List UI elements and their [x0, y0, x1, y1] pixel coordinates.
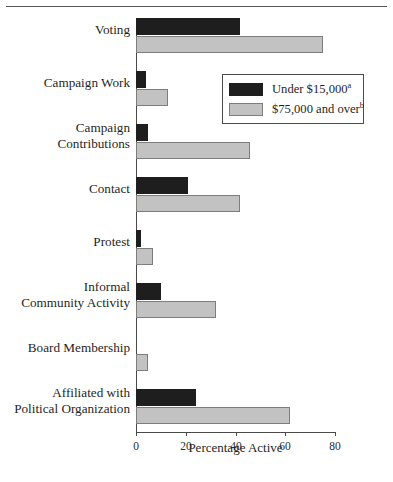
legend-entry-under15k: Under $15,000a: [229, 79, 357, 99]
category-label-line: Informal: [6, 279, 130, 295]
x-axis-title: Percentage Active: [136, 440, 335, 456]
legend: Under $15,000a $75,000 and overb: [222, 74, 364, 124]
bar-voting-over75k: [136, 36, 323, 53]
category-label-voting: Voting: [6, 22, 136, 38]
category-label-campaign-work: Campaign Work: [6, 75, 136, 91]
top-rule-divider: [6, 6, 387, 7]
category-label-contact: Contact: [6, 181, 136, 197]
category-label-line: Political Organization: [6, 401, 130, 417]
x-axis-tick-80: [335, 432, 336, 436]
bar-informal-community-activity-under15k: [136, 283, 161, 300]
bar-affiliated-political-organization-over75k: [136, 407, 290, 424]
bar-board-membership-over75k: [136, 354, 148, 371]
figure-bar-chart: Voting Campaign Work Campaign Contributi…: [0, 0, 393, 482]
category-label-line: Voting: [6, 22, 130, 38]
category-label-line: Community Activity: [6, 295, 130, 311]
category-label-line: Board Membership: [6, 340, 130, 356]
bar-campaign-work-over75k: [136, 89, 168, 106]
category-label-affiliated-political-organization: Affiliated with Political Organization: [6, 385, 136, 417]
category-labels: Voting Campaign Work Campaign Contributi…: [0, 18, 136, 433]
x-axis-tick-40: [236, 432, 237, 436]
x-axis-tick-0: [136, 432, 137, 436]
legend-footnote-marker: a: [348, 80, 352, 90]
category-label-line: Campaign: [6, 120, 130, 136]
bar-contact-under15k: [136, 177, 188, 194]
category-label-line: Protest: [6, 234, 130, 250]
bar-informal-community-activity-over75k: [136, 301, 216, 318]
category-label-board-membership: Board Membership: [6, 340, 136, 356]
bar-campaign-contributions-under15k: [136, 124, 148, 141]
bar-affiliated-political-organization-under15k: [136, 389, 196, 406]
category-label-line: Contributions: [6, 136, 130, 152]
category-label-line: Affiliated with: [6, 385, 130, 401]
bar-contact-over75k: [136, 195, 240, 212]
legend-label-text: Under $15,000: [272, 82, 348, 96]
legend-label-over75k: $75,000 and overb: [272, 101, 364, 117]
legend-entry-over75k: $75,000 and overb: [229, 99, 357, 119]
category-label-informal-community-activity: Informal Community Activity: [6, 279, 136, 311]
category-label-line: Campaign Work: [6, 75, 130, 91]
bar-campaign-contributions-over75k: [136, 142, 250, 159]
x-axis-tick-60: [285, 432, 286, 436]
bar-voting-under15k: [136, 18, 240, 35]
category-label-campaign-contributions: Campaign Contributions: [6, 120, 136, 152]
category-label-protest: Protest: [6, 234, 136, 250]
bar-campaign-work-under15k: [136, 71, 146, 88]
legend-swatch-over75k: [229, 103, 263, 116]
legend-label-under15k: Under $15,000a: [272, 81, 351, 97]
legend-swatch-under15k: [229, 83, 263, 96]
legend-footnote-marker: b: [360, 100, 364, 110]
bar-protest-over75k: [136, 248, 153, 265]
x-axis-tick-20: [186, 432, 187, 436]
bar-protest-under15k: [136, 230, 141, 247]
legend-label-text: $75,000 and over: [272, 102, 360, 116]
category-label-line: Contact: [6, 181, 130, 197]
